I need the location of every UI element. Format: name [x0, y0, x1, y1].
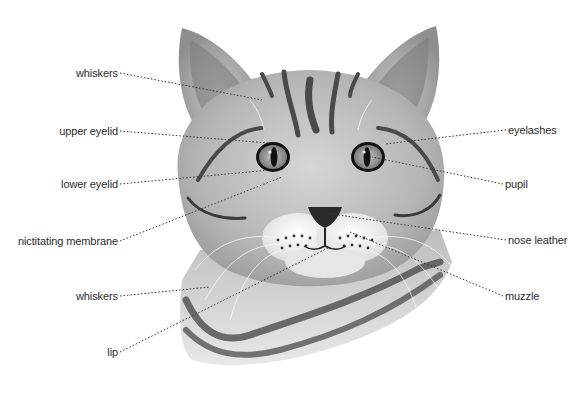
label-eyelashes: eyelashes [508, 124, 557, 137]
cat-anatomy-diagram: whiskers upper eyelid lower eyelid nicti… [0, 0, 577, 402]
label-muzzle: muzzle [505, 290, 539, 303]
label-lip: lip [107, 346, 118, 359]
label-lower-eyelid: lower eyelid [61, 178, 118, 191]
label-nictitating-membrane: nictitating membrane [18, 235, 118, 248]
label-nose-leather: nose leather [508, 234, 567, 247]
label-pupil: pupil [505, 178, 528, 191]
label-whiskers-lower: whiskers [76, 290, 118, 303]
label-whiskers-upper: whiskers [76, 67, 118, 80]
cat-illustration [0, 0, 577, 402]
label-upper-eyelid: upper eyelid [59, 125, 118, 138]
